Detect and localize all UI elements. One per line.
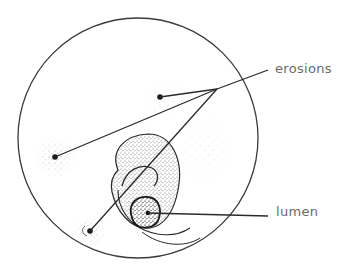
diagram-svg bbox=[0, 0, 356, 272]
erosions-label: erosions bbox=[275, 62, 332, 75]
lumen-shape bbox=[131, 197, 160, 228]
erosions-leader-main bbox=[217, 70, 268, 89]
diagram-figure: erosions lumen bbox=[0, 0, 356, 272]
lumen-label: lumen bbox=[276, 205, 318, 218]
